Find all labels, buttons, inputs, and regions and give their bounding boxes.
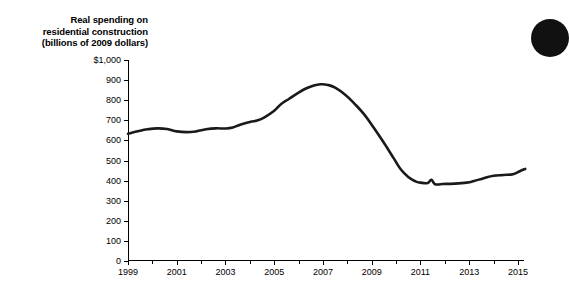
x-tick-label-2011: 2011	[411, 267, 430, 277]
x-tick-mark-2009	[372, 261, 373, 265]
x-tick-label-2009: 2009	[362, 267, 382, 277]
x-tick-label-2015: 2015	[508, 267, 528, 277]
x-tick-mark-2011	[420, 261, 421, 265]
chart-title: Real spending on residential constructio…	[8, 14, 148, 49]
y-tick-label: 800	[106, 95, 121, 105]
x-tick-mark-1999	[128, 261, 129, 265]
y-tick-label: 200	[106, 216, 121, 226]
y-tick-label: 0	[116, 256, 121, 266]
x-tick-label-2003: 2003	[215, 267, 235, 277]
x-minor-tick-2010	[396, 261, 397, 264]
chart-title-line-3: (billions of 2009 dollars)	[8, 37, 148, 49]
series-line-residential-construction	[128, 60, 524, 261]
y-tick-label: $1,000	[93, 55, 121, 65]
x-minor-tick-2004	[250, 261, 251, 264]
y-tick-label: 300	[106, 196, 121, 206]
x-tick-mark-2001	[177, 261, 178, 265]
y-tick-label: 100	[106, 236, 121, 246]
y-tick-label: 500	[106, 156, 121, 166]
x-minor-tick-2012	[445, 261, 446, 264]
x-minor-tick-2014	[494, 261, 495, 264]
chart-title-line-1: Real spending on	[8, 14, 148, 26]
x-tick-mark-2005	[274, 261, 275, 265]
x-tick-mark-2007	[323, 261, 324, 265]
y-tick-label: 700	[106, 115, 121, 125]
y-tick-label: 600	[106, 135, 121, 145]
x-tick-label-1999: 1999	[118, 267, 138, 277]
chart-title-line-2: residential construction	[8, 26, 148, 38]
corner-bullet-icon	[531, 19, 569, 57]
x-tick-mark-2015	[518, 261, 519, 265]
x-tick-label-2001: 2001	[167, 267, 187, 277]
x-tick-label-2007: 2007	[313, 267, 333, 277]
x-minor-tick-2002	[201, 261, 202, 264]
x-minor-tick-2008	[347, 261, 348, 264]
x-minor-tick-2000	[152, 261, 153, 264]
y-tick-label: 400	[106, 176, 121, 186]
y-tick-label: 900	[106, 75, 121, 85]
x-tick-label-2013: 2013	[459, 267, 479, 277]
x-tick-label-2005: 2005	[264, 267, 284, 277]
x-minor-tick-2006	[299, 261, 300, 264]
x-tick-mark-2013	[469, 261, 470, 265]
plot-area: 0100200300400500600700800900$1,000 19992…	[128, 60, 524, 261]
x-tick-mark-2003	[225, 261, 226, 265]
